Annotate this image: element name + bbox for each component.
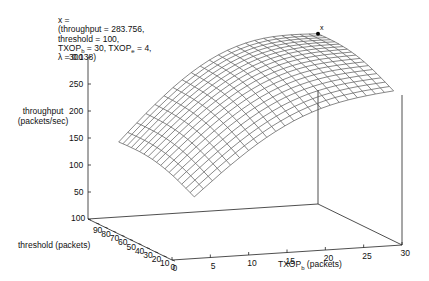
threshold-axis-label: threshold (packets) bbox=[18, 241, 90, 250]
threshold-tick bbox=[105, 227, 108, 228]
z-tick-label: 200 bbox=[69, 106, 83, 116]
threshold-tick bbox=[164, 256, 167, 257]
txop-tick-label: 15 bbox=[286, 256, 295, 266]
txop-tick-label: 30 bbox=[401, 248, 410, 258]
threshold-tick-label: 0 bbox=[171, 262, 176, 272]
z-tick-label: 100 bbox=[69, 160, 83, 170]
floor-back-edge bbox=[88, 204, 318, 219]
z-tick-label: 150 bbox=[69, 133, 83, 143]
floor-right-edge bbox=[318, 204, 402, 245]
z-tick-label: 50 bbox=[74, 187, 83, 197]
z-tick-label: 250 bbox=[69, 79, 83, 89]
threshold-tick bbox=[155, 252, 158, 253]
txop-tick-label: 25 bbox=[362, 251, 371, 261]
threshold-tick bbox=[113, 231, 116, 232]
txop-tick-label: 20 bbox=[324, 253, 333, 263]
txop-tick-label: 10 bbox=[247, 258, 256, 268]
txop-tick-label: 5 bbox=[211, 261, 216, 271]
threshold-tick-label: 10 bbox=[160, 258, 169, 268]
z-tick-label: 300 bbox=[69, 52, 83, 62]
threshold-tick-label: 100 bbox=[71, 213, 85, 223]
threshold-tick bbox=[130, 240, 133, 241]
max-point-marker bbox=[316, 32, 320, 36]
max-point-marker-label: x bbox=[320, 24, 324, 31]
threshold-tick bbox=[96, 223, 99, 224]
wireframe-surface bbox=[119, 34, 394, 197]
threshold-tick bbox=[138, 244, 141, 245]
z-axis-label: throughput (packets/sec) bbox=[8, 107, 78, 126]
threshold-tick bbox=[147, 248, 150, 249]
threshold-tick bbox=[122, 235, 125, 236]
